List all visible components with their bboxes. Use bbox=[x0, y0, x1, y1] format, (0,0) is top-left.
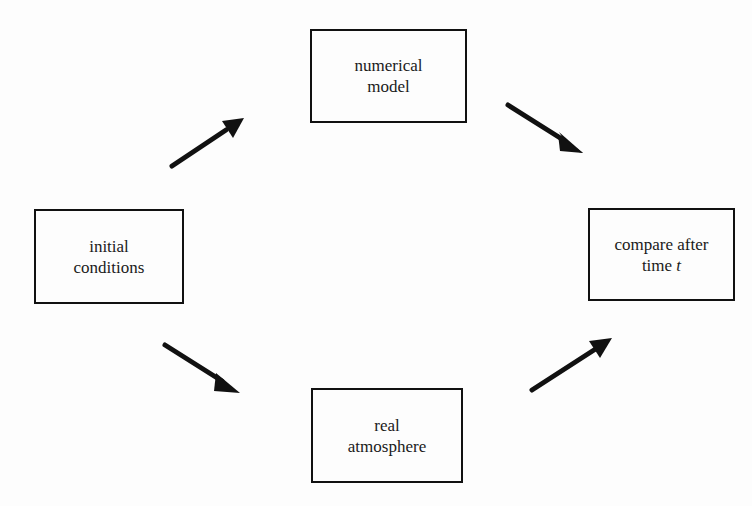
node-label-line: atmosphere bbox=[348, 436, 426, 457]
node-numerical-model: numerical model bbox=[310, 29, 467, 123]
node-real-atmosphere: real atmosphere bbox=[311, 388, 463, 483]
node-label-line: model bbox=[355, 76, 423, 97]
arrow-model-to-compare bbox=[508, 105, 583, 153]
node-label-line: conditions bbox=[74, 257, 145, 278]
arrow-initial-to-atmosphere bbox=[165, 345, 240, 393]
arrow-atmosphere-to-compare bbox=[532, 338, 612, 390]
arrow-initial-to-model bbox=[172, 118, 244, 166]
node-label-line: time t bbox=[615, 255, 709, 276]
node-initial-conditions: initial conditions bbox=[34, 209, 184, 304]
time-variable: t bbox=[676, 256, 681, 275]
node-label-line: compare after bbox=[615, 234, 709, 255]
diagram-canvas: initial conditions numerical model real … bbox=[0, 0, 752, 506]
node-label-text: time bbox=[642, 256, 676, 275]
node-label-line: initial bbox=[74, 236, 145, 257]
node-label-line: real bbox=[348, 415, 426, 436]
node-label-line: numerical bbox=[355, 55, 423, 76]
node-compare-after-time: compare after time t bbox=[588, 208, 735, 301]
